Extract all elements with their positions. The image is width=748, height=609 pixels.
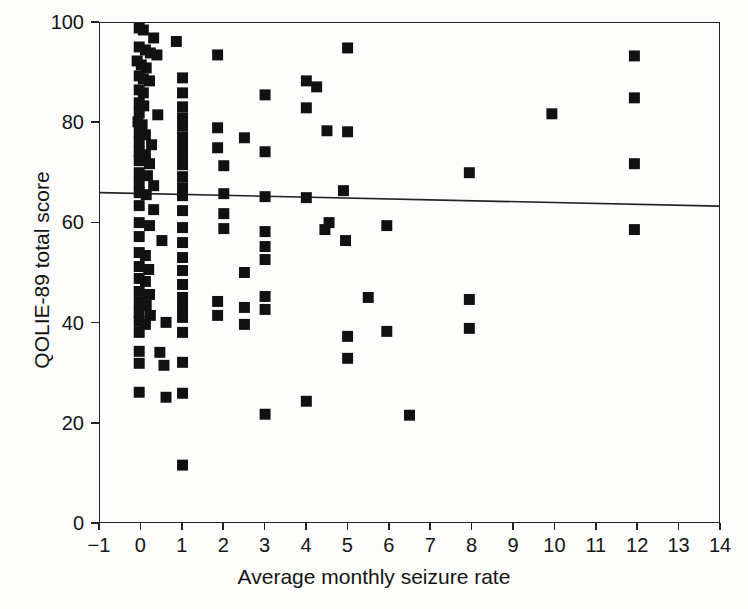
- data-point: [151, 49, 162, 60]
- data-point: [148, 204, 159, 215]
- x-tick: [305, 523, 307, 530]
- data-point: [177, 159, 188, 170]
- data-point: [629, 158, 640, 169]
- data-point: [212, 142, 223, 153]
- data-point: [464, 323, 475, 334]
- regression-line: [100, 193, 719, 206]
- data-point: [260, 291, 271, 302]
- data-point: [138, 87, 149, 98]
- data-point: [260, 89, 271, 100]
- data-point: [546, 108, 557, 119]
- x-tick-label: −1: [76, 533, 122, 557]
- data-point: [239, 267, 250, 278]
- y-tick: [91, 422, 99, 424]
- data-point: [212, 296, 223, 307]
- data-point: [148, 32, 159, 43]
- data-point: [177, 265, 188, 276]
- x-tick-label: 2: [200, 533, 246, 557]
- data-point: [301, 192, 312, 203]
- x-tick: [512, 523, 514, 530]
- data-point: [301, 396, 312, 407]
- data-point: [381, 326, 392, 337]
- data-point: [260, 241, 271, 252]
- y-tick-label: 100: [22, 10, 84, 34]
- x-tick-label: 3: [242, 533, 288, 557]
- data-point: [464, 294, 475, 305]
- data-point: [629, 92, 640, 103]
- data-point: [141, 189, 152, 200]
- x-tick-label: 5: [324, 533, 370, 557]
- x-tick: [264, 523, 266, 530]
- data-point: [464, 167, 475, 178]
- data-point: [144, 158, 155, 169]
- x-tick-label: 0: [117, 533, 163, 557]
- x-tick-label: 1: [159, 533, 205, 557]
- x-tick: [471, 523, 473, 530]
- data-point: [177, 279, 188, 290]
- data-point: [177, 72, 188, 83]
- x-tick-label: 13: [656, 533, 702, 557]
- plot-frame: [99, 22, 720, 523]
- x-tick-label: 12: [614, 533, 660, 557]
- x-tick: [98, 523, 100, 530]
- x-axis-label: Average monthly seizure rate: [0, 565, 748, 589]
- data-point: [144, 220, 155, 231]
- data-point: [134, 261, 145, 272]
- y-tick: [91, 222, 99, 224]
- data-point: [260, 304, 271, 315]
- data-point: [177, 101, 188, 112]
- data-point: [177, 302, 188, 313]
- data-point: [134, 327, 145, 338]
- data-point: [260, 146, 271, 157]
- data-point: [134, 155, 145, 166]
- data-point: [340, 235, 351, 246]
- y-tick: [91, 322, 99, 324]
- x-tick: [429, 523, 431, 530]
- data-point: [161, 317, 172, 328]
- scatter-plot-figure: −101234567891011121314020406080100 Avera…: [0, 0, 748, 609]
- data-point: [134, 136, 145, 147]
- data-layer: [100, 23, 719, 522]
- data-point: [134, 387, 145, 398]
- data-point: [134, 200, 145, 211]
- data-point: [342, 42, 353, 53]
- data-point: [138, 25, 149, 36]
- data-point: [156, 235, 167, 246]
- data-point: [260, 226, 271, 237]
- data-point: [629, 224, 640, 235]
- data-point: [134, 286, 145, 297]
- data-point: [152, 109, 163, 120]
- data-point: [239, 132, 250, 143]
- data-point: [177, 237, 188, 248]
- y-tick: [91, 522, 99, 524]
- data-point: [158, 360, 169, 371]
- data-point: [134, 231, 145, 242]
- data-point: [177, 205, 188, 216]
- data-point: [177, 357, 188, 368]
- x-tick-label: 9: [490, 533, 536, 557]
- data-point: [212, 122, 223, 133]
- y-tick-label: 0: [22, 511, 84, 535]
- x-tick-label: 11: [573, 533, 619, 557]
- data-point: [140, 276, 151, 287]
- data-point: [321, 125, 332, 136]
- data-point: [260, 409, 271, 420]
- data-point: [218, 223, 229, 234]
- data-point: [212, 49, 223, 60]
- data-point: [239, 319, 250, 330]
- data-point: [342, 331, 353, 342]
- data-point: [146, 139, 157, 150]
- data-point: [218, 188, 229, 199]
- data-point: [212, 310, 223, 321]
- data-point: [154, 347, 165, 358]
- data-point: [177, 171, 188, 182]
- x-tick: [388, 523, 390, 530]
- data-point: [134, 358, 145, 369]
- data-point: [143, 264, 154, 275]
- y-tick: [91, 21, 99, 23]
- data-point: [177, 87, 188, 98]
- data-point: [260, 191, 271, 202]
- x-tick: [636, 523, 638, 530]
- x-tick: [222, 523, 224, 530]
- data-point: [629, 50, 640, 61]
